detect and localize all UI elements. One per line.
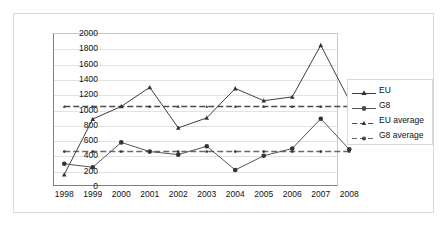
legend-item-g8[interactable]: G8: [351, 98, 430, 113]
y-axis-tick: 800: [38, 121, 98, 130]
y-axis-tick: 1400: [38, 75, 98, 84]
y-axis-tick: 1000: [38, 106, 98, 115]
y-axis-tick: 200: [38, 167, 98, 176]
chart-legend[interactable]: EU G8 EU average: [347, 79, 433, 145]
legend-item-g8-average[interactable]: G8 average: [351, 128, 430, 143]
legend-label-eu: EU: [377, 86, 391, 95]
y-axis-tick: 1600: [38, 60, 98, 69]
legend-item-eu[interactable]: EU: [351, 83, 430, 98]
legend-label-g8-average: G8 average: [377, 131, 423, 140]
legend-label-g8: G8: [377, 101, 390, 110]
line-chart: 2000 1800 1600 1400 1200 1000 800 600 40…: [0, 0, 446, 230]
y-axis-tick: 400: [38, 151, 98, 160]
legend-item-eu-average[interactable]: EU average: [351, 113, 430, 128]
legend-key-eu-average: [351, 115, 377, 126]
y-axis-tick: 1200: [38, 90, 98, 99]
legend-key-g8: [351, 100, 377, 111]
y-axis-tick: 1800: [38, 44, 98, 53]
legend-key-g8-average: [351, 130, 377, 141]
y-axis-tick: 600: [38, 136, 98, 145]
x-axis-tick: 2008: [329, 190, 369, 199]
legend-key-eu: [351, 85, 377, 96]
y-axis-tick: 2000: [38, 29, 98, 38]
legend-label-eu-average: EU average: [377, 116, 424, 125]
